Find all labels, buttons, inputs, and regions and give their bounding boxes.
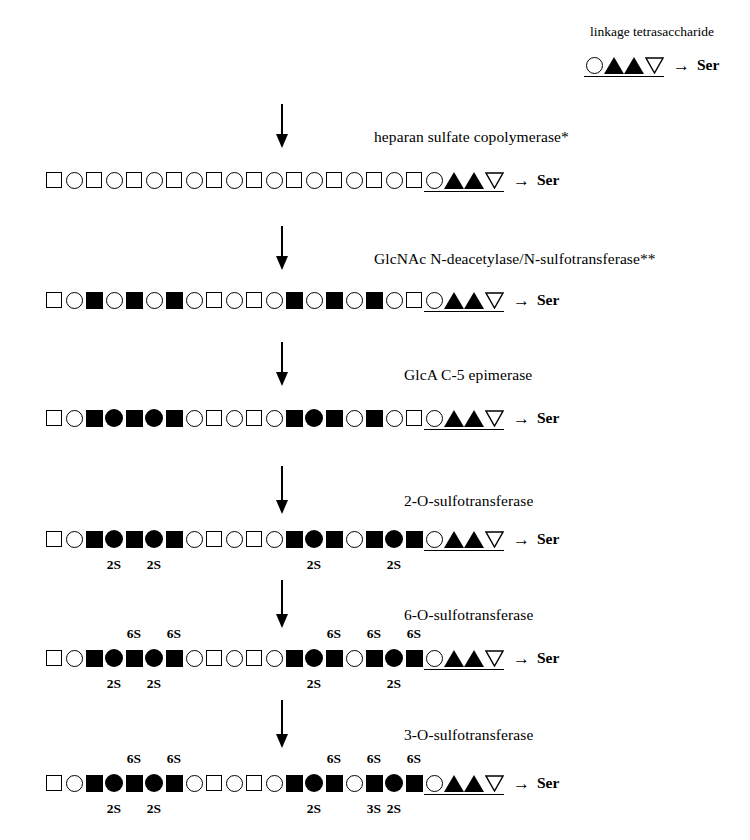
ser-tail: → Ser (673, 56, 719, 74)
unit-square-filled (84, 285, 104, 315)
unit-square-filled (364, 285, 384, 315)
sulfate-label-below: 2S (147, 677, 161, 691)
unit-square-open (244, 643, 264, 673)
unit-square-filled: 6S (124, 768, 144, 798)
unit-square-filled (284, 403, 304, 433)
unit-square-open (324, 165, 344, 195)
unit-square-filled: 6S3S (364, 768, 384, 798)
unit-circle-open (64, 403, 84, 433)
unit-circle-open (184, 285, 204, 315)
unit-circle-open (224, 768, 244, 798)
sulfate-label-above: 6S (327, 752, 341, 766)
unit-circle-open (104, 165, 124, 195)
sulfate-label-below: 2S (107, 677, 121, 691)
right-arrow-icon: → (673, 57, 690, 74)
tetrasaccharide-underline (424, 669, 504, 670)
ser-residue: Ser (537, 171, 559, 189)
unit-circle-filled (304, 403, 324, 433)
unit-circle-open (184, 524, 204, 554)
legend-tetrasaccharide-row: → Ser (584, 50, 719, 80)
unit-circle-filled: 2S (384, 524, 404, 554)
unit-circle-open (344, 165, 364, 195)
unit-circle-filled: 2S (384, 643, 404, 673)
enzyme-label-glca-c5-epimerase: GlcA C-5 epimerase (404, 366, 532, 384)
sugar-chain: 2S6S2S6S2S6S6S3S2S6S→Ser (44, 768, 559, 798)
unit-circle-filled: 2S (104, 524, 124, 554)
unit-circle-open (384, 285, 404, 315)
ser-tail: →Ser (513, 171, 559, 189)
sulfate-label-below: 2S (387, 558, 401, 572)
unit-circle-open (264, 768, 284, 798)
sulfate-label-above: 6S (367, 627, 381, 641)
unit-square-filled (364, 524, 384, 554)
unit-square-open (244, 165, 264, 195)
unit-square-open (124, 165, 144, 195)
tetrasaccharide-group: → Ser (584, 50, 719, 80)
unit-square-filled (84, 768, 104, 798)
unit-square-filled (284, 285, 304, 315)
unit-square-filled: 6S (164, 768, 184, 798)
reaction-arrow-2 (272, 226, 292, 270)
tetrasaccharide-group (424, 403, 504, 433)
unit-square-open (84, 165, 104, 195)
unit-circle-open (264, 403, 284, 433)
unit-square-filled (284, 524, 304, 554)
tetrasaccharide-group (424, 768, 504, 798)
unit-square-open (44, 524, 64, 554)
ser-tail: →Ser (513, 530, 559, 548)
unit-square-open (204, 403, 224, 433)
ser-residue: Ser (537, 530, 559, 548)
ser-tail: →Ser (513, 774, 559, 792)
unit-square-filled (324, 524, 344, 554)
unit-circle-filled: 2S (144, 768, 164, 798)
unit-square-filled (164, 403, 184, 433)
ser-residue: Ser (537, 409, 559, 427)
unit-circle-open (184, 403, 204, 433)
unit-square-open (204, 165, 224, 195)
right-arrow-icon: → (513, 775, 530, 792)
sugar-chain: 2S2S2S2S→Ser (44, 524, 559, 554)
unit-square-open (244, 285, 264, 315)
right-arrow-icon: → (513, 531, 530, 548)
unit-circle-open (304, 285, 324, 315)
sulfate-label-below: 2S (147, 558, 161, 572)
linkage-tetrasaccharide-title: linkage tetrasaccharide (590, 24, 714, 40)
tetrasaccharide-group (424, 165, 504, 195)
right-arrow-icon: → (513, 410, 530, 427)
unit-square-filled: 6S (124, 643, 144, 673)
unit-circle-open (344, 285, 364, 315)
tetrasaccharide-underline (424, 550, 504, 551)
sulfate-label-below: 2S (387, 802, 401, 816)
unit-circle-open (264, 643, 284, 673)
unit-square-filled (324, 403, 344, 433)
unit-square-open (164, 165, 184, 195)
sulfate-label-above: 6S (167, 752, 181, 766)
unit-square-open (244, 524, 264, 554)
right-arrow-icon: → (513, 172, 530, 189)
unit-square-filled (84, 643, 104, 673)
ser-residue: Ser (537, 774, 559, 792)
sulfate-label-above: 6S (127, 752, 141, 766)
unit-circle-open (384, 165, 404, 195)
sulfate-label-below: 2S (307, 802, 321, 816)
chain-row-3: →Ser (44, 403, 559, 433)
chain-row-4: 2S2S2S2S→Ser (44, 524, 559, 554)
sugar-chain: 2S6S2S6S2S6S6S2S6S→Ser (44, 643, 559, 673)
reaction-arrow-5 (272, 580, 292, 628)
unit-circle-open (144, 165, 164, 195)
chain-row-5: 2S6S2S6S2S6S6S2S6S→Ser (44, 643, 559, 673)
unit-square-filled (84, 524, 104, 554)
unit-circle-open (344, 643, 364, 673)
ser-tail: →Ser (513, 291, 559, 309)
unit-circle-open (224, 165, 244, 195)
unit-circle-filled: 2S (144, 643, 164, 673)
tetrasaccharide-group (424, 643, 504, 673)
sulfate-label-above: 6S (367, 752, 381, 766)
tetrasaccharide-underline (424, 191, 504, 192)
pathway-diagram: linkage tetrasaccharide → Ser (0, 0, 750, 840)
unit-circle-open (304, 165, 324, 195)
unit-circle-filled (144, 403, 164, 433)
unit-square-open (44, 403, 64, 433)
enzyme-label-6-o-sulfotransferase: 6-O-sulfotransferase (404, 606, 533, 624)
ser-tail: →Ser (513, 649, 559, 667)
